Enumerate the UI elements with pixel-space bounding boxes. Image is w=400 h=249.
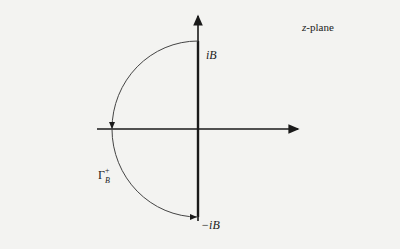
contour-subscript: B bbox=[105, 176, 110, 185]
contour-label: Γ+B bbox=[98, 168, 105, 183]
contour-symbol: Γ bbox=[98, 168, 105, 182]
plane-label: z-plane bbox=[302, 21, 334, 33]
arc-end-arrow-icon bbox=[190, 214, 197, 220]
upper-point-label: iB bbox=[206, 48, 217, 63]
contour-diagram bbox=[0, 0, 400, 249]
arc-arrow-icon bbox=[109, 122, 115, 129]
lower-point-label: −iB bbox=[201, 218, 220, 233]
contour-superscript: + bbox=[105, 166, 110, 175]
